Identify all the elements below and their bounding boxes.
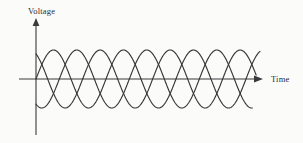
waveform-figure: Voltage Time: [0, 0, 303, 143]
voltage-axis-arrow-icon: [33, 18, 40, 26]
time-axis-arrow-icon: [254, 76, 263, 83]
waveform-plot: Voltage Time: [0, 0, 303, 143]
time-axis-label: Time: [271, 74, 289, 84]
voltage-axis-label: Voltage: [28, 6, 55, 16]
